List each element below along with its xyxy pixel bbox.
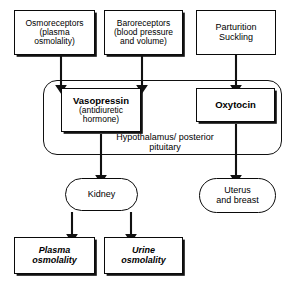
- region-label-line-1: Hypothalamus/: [116, 132, 176, 142]
- vasopressin-line-3: hormone): [72, 115, 130, 124]
- parturition-line-2: Suckling: [214, 33, 257, 43]
- node-oxytocin[interactable]: Oxytocin: [196, 88, 275, 122]
- node-osmoreceptors[interactable]: Osmoreceptors (plasma osmolality): [14, 10, 95, 55]
- plasma-osmolality-line-2: osmolality: [31, 256, 78, 266]
- baroreceptors-line-3: and volume): [113, 37, 174, 46]
- urine-osmolality-line-2: osmolality: [120, 256, 167, 266]
- node-parturition-suckling[interactable]: Parturition Suckling: [196, 10, 276, 55]
- uterus-breast-line-2: and breast: [215, 196, 260, 206]
- node-baroreceptors[interactable]: Baroreceptors (blood pressure and volume…: [104, 10, 183, 55]
- kidney-line-1: Kidney: [87, 190, 117, 200]
- node-plasma-osmolality[interactable]: Plasma osmolality: [14, 237, 95, 274]
- node-vasopressin[interactable]: Vasopressin (antidiuretic hormone): [61, 88, 141, 132]
- node-kidney[interactable]: Kidney: [65, 178, 138, 211]
- node-urine-osmolality[interactable]: Urine osmolality: [104, 237, 183, 274]
- osmoreceptors-line-3: osmolality): [24, 37, 84, 46]
- oxytocin-line-1: Oxytocin: [214, 100, 257, 110]
- flowchart-diagram: Hypothalamus/ posterior pituitary Osmore…: [0, 0, 294, 290]
- hypothalamus-posterior-pituitary-label: Hypothalamus/ posterior pituitary: [105, 133, 225, 153]
- node-uterus-and-breast[interactable]: Uterus and breast: [199, 178, 276, 213]
